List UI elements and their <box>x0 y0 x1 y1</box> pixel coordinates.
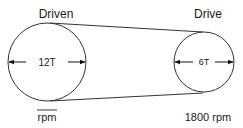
belt-drive-diagram: 12T 6T Driven Drive rpm 1800 rpm <box>0 0 243 128</box>
driven-title: Driven <box>39 7 74 21</box>
drive-title: Drive <box>194 7 222 21</box>
drive-teeth-label: 6T <box>199 57 210 67</box>
belt-bottom-line <box>50 93 203 101</box>
driven-speed-label: rpm <box>38 111 57 123</box>
drive-speed-label: 1800 rpm <box>185 111 231 123</box>
driven-teeth-label: 12T <box>38 57 55 68</box>
belt-top-line <box>50 23 203 32</box>
